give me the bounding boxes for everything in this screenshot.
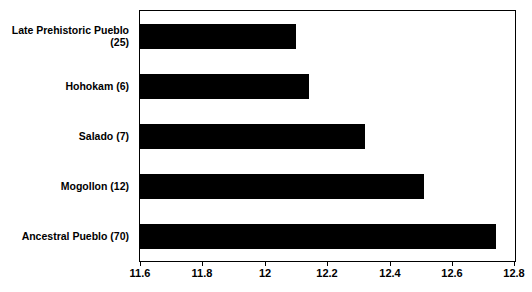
bar-row-1 — [140, 61, 515, 111]
bar-ancestral-pueblo — [140, 224, 496, 249]
x-tick-label-3: 12.2 — [307, 267, 347, 279]
x-tick-label-5: 12.6 — [432, 267, 472, 279]
bar-hohokam — [140, 74, 309, 99]
category-label-2-line-0: Salado (7) — [79, 130, 129, 143]
bar-row-3 — [140, 161, 515, 211]
bar-mogollon — [140, 174, 424, 199]
category-label-0-line-0: Late Prehistoric Pueblo — [12, 24, 129, 36]
x-tick-mark-2 — [265, 262, 266, 266]
category-label-4-line-0: Ancestral Pueblo (70) — [22, 230, 129, 243]
x-axis: 11.6 11.8 12 12.2 12.4 12.6 12.8 — [140, 262, 515, 290]
category-label-0: Late Prehistoric Pueblo (25) — [0, 11, 132, 61]
x-tick-mark-6 — [514, 262, 515, 266]
category-labels: Late Prehistoric Pueblo (25) Hohokam (6)… — [0, 11, 136, 261]
bar-salado — [140, 124, 365, 149]
category-label-0-line-1: (25) — [110, 36, 129, 48]
bar-row-4 — [140, 211, 515, 261]
category-label-3: Mogollon (12) — [0, 161, 132, 211]
x-tick-mark-0 — [140, 262, 141, 266]
category-label-2: Salado (7) — [0, 111, 132, 161]
bar-late-prehistoric-pueblo — [140, 24, 296, 49]
x-tick-mark-4 — [390, 262, 391, 266]
category-label-4: Ancestral Pueblo (70) — [0, 211, 132, 261]
x-tick-mark-5 — [452, 262, 453, 266]
bar-row-0 — [140, 11, 515, 61]
x-tick-label-4: 12.4 — [370, 267, 410, 279]
x-tick-label-0: 11.6 — [120, 267, 160, 279]
bar-chart: Late Prehistoric Pueblo (25) Hohokam (6)… — [0, 0, 532, 292]
bars-layer — [140, 11, 515, 261]
bar-row-2 — [140, 111, 515, 161]
x-tick-mark-3 — [327, 262, 328, 266]
x-tick-mark-1 — [202, 262, 203, 266]
x-tick-label-1: 11.8 — [182, 267, 222, 279]
category-label-1-line-0: Hohokam (6) — [65, 80, 129, 93]
category-label-3-line-0: Mogollon (12) — [61, 180, 129, 193]
category-label-1: Hohokam (6) — [0, 61, 132, 111]
x-tick-label-6: 12.8 — [494, 267, 532, 279]
x-tick-label-2: 12 — [245, 267, 285, 279]
